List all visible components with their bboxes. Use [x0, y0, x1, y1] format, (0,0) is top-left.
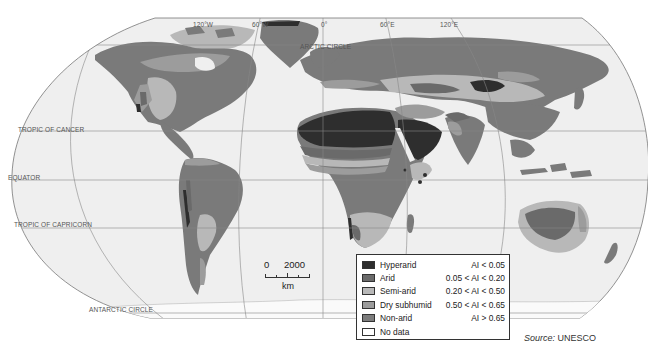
swatch-hyperarid: [362, 261, 375, 269]
swatch-no-data: [362, 328, 375, 336]
source-credit: Source: UNESCO: [524, 333, 596, 343]
source-name: UNESCO: [558, 333, 597, 343]
scale-end: 2000: [284, 259, 305, 270]
label-tropic-of-capricorn: TROPIC OF CAPRICORN: [14, 221, 92, 228]
swatch-arid: [362, 274, 375, 282]
legend-item-hyperarid: Hyperarid AI < 0.05: [362, 258, 505, 271]
scale-start: 0: [264, 259, 269, 270]
label-antarctic-circle: ANTARCTIC CIRCLE: [89, 306, 154, 313]
world-aridity-map: 120°W 60°W 0° 60°E 120°E ARCTIC CIRCLE T…: [0, 0, 648, 353]
label-60w: 60°W: [252, 21, 269, 28]
legend-item-semi-arid: Semi-arid 0.20 < AI < 0.50: [362, 285, 505, 298]
source-prefix: Source:: [524, 333, 555, 343]
legend-item-non-arid: Non-arid AI > 0.65: [362, 312, 505, 325]
label-equator: EQUATOR: [8, 174, 40, 182]
label-60e: 60°E: [380, 21, 395, 28]
legend-item-dry-subhumid: Dry subhumid 0.50 < AI < 0.65: [362, 298, 505, 311]
scale-unit: km: [282, 281, 294, 291]
scale-bar: 0 2000 km: [262, 259, 332, 295]
label-0: 0°: [321, 21, 328, 28]
label-120e: 120°E: [440, 21, 459, 28]
swatch-dry-subhumid: [362, 301, 375, 309]
swatch-semi-arid: [362, 287, 375, 295]
map-legend: Hyperarid AI < 0.05 Arid 0.05 < AI < 0.2…: [356, 254, 510, 340]
label-120w: 120°W: [193, 21, 214, 28]
swatch-non-arid: [362, 314, 375, 322]
label-tropic-of-cancer: TROPIC OF CANCER: [18, 126, 84, 133]
legend-item-arid: Arid 0.05 < AI < 0.20: [362, 271, 505, 284]
legend-item-no-data: No data: [362, 325, 505, 338]
label-arctic-circle: ARCTIC CIRCLE: [300, 43, 352, 50]
